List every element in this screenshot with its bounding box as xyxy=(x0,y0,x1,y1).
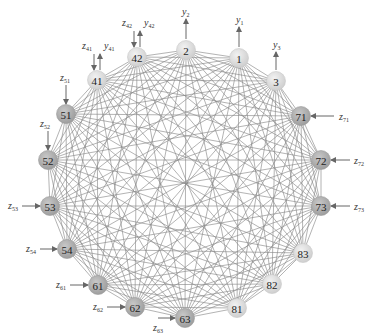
node-82: 82 xyxy=(263,275,282,294)
io-label-z62: z62 xyxy=(92,301,103,313)
io-label-z71: z71 xyxy=(338,111,349,123)
io-label-y1: y1 xyxy=(235,14,243,26)
io-label-z63: z63 xyxy=(152,322,163,334)
node-label: 53 xyxy=(45,201,57,213)
node-1: 1 xyxy=(230,49,249,68)
node-72: 72 xyxy=(312,151,331,170)
node-71: 71 xyxy=(292,107,311,126)
io-label-subscript: 61 xyxy=(60,285,66,291)
edge-1-81 xyxy=(237,58,239,308)
edge-3-73 xyxy=(276,81,321,206)
io-label-z53: z53 xyxy=(7,200,18,212)
node-label: 42 xyxy=(132,52,143,64)
edge-72-82 xyxy=(272,160,321,284)
complete-graph-canvas: y2y1y3z42y42z41y41z51z52z53z54z61z62z63z… xyxy=(0,0,371,334)
node-label: 52 xyxy=(43,155,54,167)
node-41: 41 xyxy=(88,71,107,90)
edge-72-41 xyxy=(97,80,321,160)
io-label-z41: z41 xyxy=(81,40,92,52)
node-3: 3 xyxy=(267,72,286,91)
node-83: 83 xyxy=(294,244,313,263)
io-label-subscript: 63 xyxy=(157,328,163,334)
node-label: 82 xyxy=(267,279,278,291)
io-label-subscript: 53 xyxy=(12,206,18,212)
node-label: 62 xyxy=(130,302,141,314)
io-label-subscript: 41 xyxy=(108,46,114,52)
node-63: 63 xyxy=(176,309,195,328)
node-label: 2 xyxy=(183,45,189,57)
edge-81-62 xyxy=(135,307,237,308)
node-label: 41 xyxy=(92,75,103,87)
io-label-z51: z51 xyxy=(59,72,70,84)
io-label-subscript: 72 xyxy=(358,161,364,167)
io-label-subscript: 62 xyxy=(97,307,103,313)
io-label-subscript: 3 xyxy=(277,45,280,51)
io-label-y41: y41 xyxy=(103,40,114,52)
node-81: 81 xyxy=(228,299,247,318)
network-diagram: y2y1y3z42y42z41y41z51z52z53z54z61z62z63z… xyxy=(0,0,371,334)
io-label-subscript: 51 xyxy=(64,78,70,84)
node-62: 62 xyxy=(126,298,145,317)
node-label: 61 xyxy=(93,280,104,292)
io-label-z61: z61 xyxy=(55,279,66,291)
edges-layer xyxy=(48,50,321,318)
edge-54-51 xyxy=(66,114,67,249)
node-label: 83 xyxy=(298,248,310,260)
io-label-z72: z72 xyxy=(353,155,364,167)
node-label: 81 xyxy=(232,303,243,315)
io-label-z52: z52 xyxy=(39,118,50,130)
io-label-y42: y42 xyxy=(143,17,154,29)
io-label-subscript: 1 xyxy=(240,20,243,26)
node-label: 73 xyxy=(316,201,328,213)
node-label: 72 xyxy=(316,155,327,167)
edge-82-42 xyxy=(137,57,272,284)
node-61: 61 xyxy=(89,276,108,295)
edge-63-53 xyxy=(50,206,185,318)
io-label-subscript: 71 xyxy=(343,117,349,123)
node-label: 3 xyxy=(273,76,279,88)
io-label-z42: z42 xyxy=(121,17,132,29)
io-label-subscript: 54 xyxy=(30,249,36,255)
node-53: 53 xyxy=(41,197,60,216)
node-52: 52 xyxy=(39,151,58,170)
io-label-subscript: 2 xyxy=(186,12,189,18)
node-42: 42 xyxy=(128,48,147,67)
node-label: 1 xyxy=(236,53,242,65)
io-label-y2: y2 xyxy=(181,6,189,18)
io-label-subscript: 73 xyxy=(358,207,364,213)
io-label-z73: z73 xyxy=(353,201,364,213)
node-2: 2 xyxy=(177,41,196,60)
io-label-subscript: 42 xyxy=(126,23,132,29)
io-label-z54: z54 xyxy=(25,243,36,255)
node-51: 51 xyxy=(57,105,76,124)
node-label: 54 xyxy=(62,244,74,256)
io-label-subscript: 41 xyxy=(86,46,92,52)
node-54: 54 xyxy=(58,240,77,259)
io-label-y3: y3 xyxy=(272,39,280,51)
node-label: 51 xyxy=(61,109,72,121)
node-label: 63 xyxy=(180,313,192,325)
node-label: 71 xyxy=(296,111,307,123)
io-label-subscript: 52 xyxy=(44,124,50,130)
io-label-subscript: 42 xyxy=(148,23,154,29)
node-73: 73 xyxy=(312,197,331,216)
